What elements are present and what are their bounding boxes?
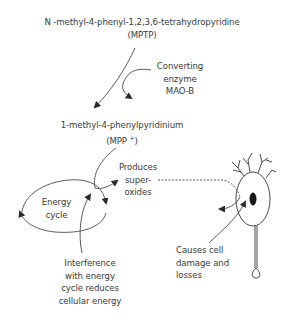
cell-damage-label: Causes cell damage and losses	[176, 244, 236, 282]
mptp-to-mpp-arrow	[95, 48, 135, 107]
enzyme-label: Converting enzyme MAO-B	[150, 60, 210, 98]
neuron-icon	[232, 153, 276, 278]
mpp-name: 1-methyl-4-phenylpyridinium	[52, 119, 192, 132]
mptp-name: N -methyl-4-phenyl-1,2,3,6-tetrahydropyr…	[0, 16, 284, 29]
enzyme-branch-line	[126, 69, 151, 78]
interference-arrow	[80, 195, 90, 253]
superoxide-to-neuron-dashed	[158, 180, 240, 197]
interference-label: Interference with energy cycle reduces c…	[55, 257, 125, 307]
energy-cycle-label: Energy cycle	[34, 196, 79, 221]
superoxides-label: Produces super- oxides	[113, 161, 163, 199]
mpp-label: 1-methyl-4-phenylpyridinium (MPP +)	[52, 119, 192, 147]
enzyme-arrow	[123, 78, 131, 98]
mptp-abbrev: (MPTP)	[0, 29, 284, 42]
mptp-label: N -methyl-4-phenyl-1,2,3,6-tetrahydropyr…	[0, 16, 284, 41]
mpp-abbrev: (MPP +)	[52, 132, 192, 148]
